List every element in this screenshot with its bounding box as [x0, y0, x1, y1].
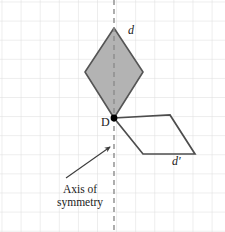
point-d-marker [111, 115, 118, 122]
label-preimage-d: d [128, 24, 134, 37]
axis-caption-line-2: symmetry [44, 196, 116, 209]
axis-of-symmetry-caption: Axis of symmetry [44, 183, 116, 209]
label-image-d-prime: d′ [172, 155, 181, 168]
axis-caption-line-1: Axis of [44, 183, 116, 196]
label-point-d: D [101, 116, 110, 129]
geometry-figure: d d′ D Axis of symmetry [0, 0, 225, 232]
